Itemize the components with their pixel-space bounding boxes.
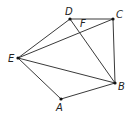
vertices: [16, 17, 116, 100]
segment-EC: [18, 19, 113, 58]
label-B: B: [118, 81, 125, 92]
geometry-figure: A B C D E F: [0, 0, 130, 114]
label-E: E: [8, 53, 15, 64]
segment-BA: [61, 83, 115, 99]
point-B: [113, 81, 116, 84]
point-C: [111, 17, 114, 20]
segment-ED: [18, 19, 70, 58]
point-D: [68, 17, 71, 20]
label-D: D: [65, 6, 73, 17]
segment-AE: [18, 58, 61, 99]
label-C: C: [116, 9, 123, 20]
segments: [18, 19, 115, 99]
label-A: A: [55, 102, 63, 113]
label-F: F: [80, 18, 86, 29]
point-E: [16, 56, 19, 59]
segment-CB: [113, 19, 115, 83]
point-A: [59, 97, 62, 100]
